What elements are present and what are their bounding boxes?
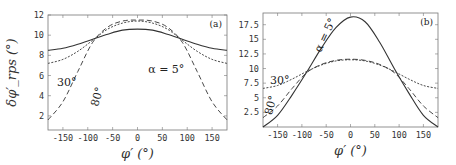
series-line-dashed (48, 20, 227, 120)
series-line-dashed (263, 59, 438, 117)
plot-frame (263, 13, 438, 127)
y-tick-label: 2.5 (244, 107, 259, 117)
y-tick-label: 6 (39, 71, 44, 81)
chart-panel-a: -150-100-5005010015024681012α = 5°30°80°… (4, 10, 227, 161)
panel-label: (a) (210, 19, 222, 29)
x-tick-label: 50 (157, 133, 167, 143)
series-line-dotted (48, 21, 227, 63)
y-tick-label: 15 (249, 34, 259, 44)
x-tick-label: -50 (105, 133, 120, 143)
y-tick-label: 7.5 (244, 78, 259, 88)
x-tick-label: -100 (292, 130, 312, 140)
y-axis-label: δφ′_rps (°) (4, 38, 19, 106)
curve-annotation: α = 5° (148, 63, 184, 76)
panel-label: (b) (420, 17, 433, 27)
y-tick-label: 17.5 (239, 20, 259, 30)
y-tick-label: 5 (254, 93, 259, 103)
curve-annotation: 30° (270, 74, 290, 87)
y-tick-label: 12.5 (239, 49, 259, 59)
y-tick-label: 2 (39, 111, 44, 121)
y-tick-label: 8 (39, 50, 44, 60)
x-tick-label: -100 (78, 133, 98, 143)
y-tick-label: 10 (249, 64, 259, 74)
x-tick-label: 100 (391, 130, 406, 140)
y-tick-label: 4 (39, 91, 44, 101)
x-tick-label: -150 (267, 130, 287, 140)
curve-annotation: α = 5° (312, 16, 339, 54)
plot-frame (48, 15, 227, 130)
curve-annotation: 30° (57, 76, 76, 89)
curve-annotation: 80° (88, 86, 106, 108)
chart-panel-b: -150-100-500501001502.557.51012.51517.5α… (239, 13, 438, 158)
x-tick-label: 100 (180, 133, 195, 143)
x-tick-label: -150 (53, 133, 73, 143)
x-tick-label: 150 (204, 133, 219, 143)
x-tick-label: 0 (135, 133, 140, 143)
series-line-solid (48, 29, 227, 50)
x-tick-label: 150 (416, 130, 431, 140)
y-tick-label: 10 (34, 30, 44, 40)
series-line-solid (263, 17, 438, 127)
y-tick-label: 12 (34, 10, 44, 20)
figure: -150-100-5005010015024681012α = 5°30°80°… (0, 0, 456, 165)
x-tick-label: 50 (370, 130, 380, 140)
x-axis-label: φ′ (°) (334, 143, 367, 158)
x-tick-label: -50 (319, 130, 334, 140)
x-axis-label: φ′ (°) (121, 146, 154, 161)
x-tick-label: 0 (348, 130, 353, 140)
